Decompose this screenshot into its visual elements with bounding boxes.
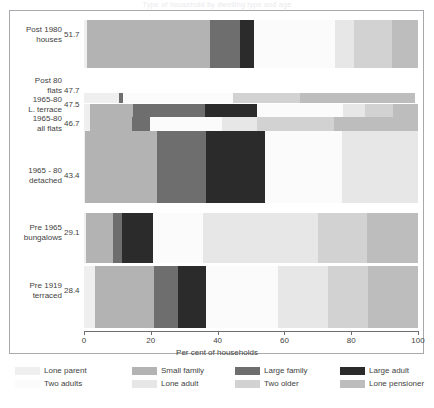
y-category-label: Pre 1919terraced: [0, 281, 62, 300]
bar-segment: [343, 104, 365, 117]
y-category-value: 43.4: [64, 171, 80, 180]
y-category-label: 1965 - 80detached: [0, 166, 62, 185]
y-category-value: 46.7: [64, 119, 80, 128]
x-tick-label: 60: [280, 336, 289, 345]
bar-segment: [210, 20, 240, 68]
y-category-label-line1: 1965 - 80: [0, 166, 62, 176]
y-category-label-line1: Pre 1965: [0, 223, 62, 233]
x-axis-label: Per cent of households: [0, 348, 434, 357]
bar-segment: [354, 20, 392, 68]
bar-segment: [365, 104, 393, 117]
y-category-label-line2: flats: [0, 86, 62, 96]
y-category-label-line1: Post 80: [0, 76, 62, 86]
x-tick: [351, 331, 352, 335]
y-category-label-line1: 1965-80: [0, 95, 62, 105]
bar-segment: [150, 117, 222, 131]
legend-swatch-icon: [132, 380, 157, 388]
legend-label: Lone parent: [44, 366, 87, 375]
legend-label: Large adult: [369, 366, 409, 375]
stacked-bar: [84, 104, 418, 117]
chart-page: Type of household by dwelling type and a…: [0, 0, 434, 408]
x-tick: [418, 331, 419, 335]
x-tick-label: 100: [411, 336, 424, 345]
bar-segment: [90, 117, 132, 131]
bar-segment: [318, 213, 367, 263]
y-category-label-line2: detached: [0, 176, 62, 186]
bar-segment: [265, 131, 342, 203]
stacked-bar: [84, 131, 418, 203]
bar-segment: [157, 131, 206, 203]
legend-row: Two adultsLone adultTwo olderLone pensio…: [9, 379, 424, 390]
bar-segment: [90, 104, 133, 117]
stacked-bar: [84, 117, 418, 131]
bar-segment: [300, 93, 415, 103]
legend-item[interactable]: Lone parent: [15, 366, 87, 375]
x-tick-label: 20: [146, 336, 155, 345]
bar-segment: [85, 131, 157, 203]
legend-item[interactable]: Two older: [235, 379, 299, 388]
bar-segment: [278, 266, 328, 328]
y-category-label: 1965-80L. terrace: [0, 95, 62, 114]
x-tick: [284, 331, 285, 335]
y-category-label-line2: all flats: [0, 124, 62, 134]
legend-item[interactable]: Lone adult: [132, 379, 198, 388]
bar-segment: [334, 117, 418, 131]
legend-swatch-icon: [340, 380, 365, 388]
y-category-label-line1: 1965-80: [0, 114, 62, 124]
bar-segment: [122, 213, 153, 263]
legend-item[interactable]: Large adult: [340, 366, 409, 375]
bar-segment: [154, 266, 178, 328]
legend-label: Two older: [264, 379, 299, 388]
y-category-label: Post 1980houses: [0, 25, 62, 44]
x-tick: [218, 331, 219, 335]
x-axis-line: [84, 331, 419, 332]
bar-segment: [233, 93, 300, 103]
bar-segment: [87, 20, 210, 68]
y-category-label: 1965-80all flats: [0, 114, 62, 133]
stacked-bar: [84, 213, 418, 263]
legend-label: Two adults: [44, 379, 82, 388]
x-tick: [84, 331, 85, 335]
bar-segment: [113, 213, 122, 263]
stacked-bar: [84, 266, 418, 328]
bar-segment: [367, 213, 418, 263]
bar-segment: [240, 20, 254, 68]
bar-segment: [368, 266, 418, 328]
legend-swatch-icon: [15, 380, 40, 388]
y-category-label-line2: terraced: [0, 291, 62, 301]
legend-swatch-icon: [235, 367, 260, 375]
bar-segment: [123, 93, 233, 103]
bar-segment: [257, 117, 334, 131]
legend-label: Lone pensioner: [369, 379, 424, 388]
legend-item[interactable]: Large family: [235, 366, 308, 375]
chart-legend: Lone parentSmall familyLarge familyLarge…: [9, 360, 424, 400]
y-category-label-line2: bungalows: [0, 233, 62, 243]
bar-segment: [84, 266, 95, 328]
y-category-value: 47.5: [64, 100, 80, 109]
y-category-label-line2: L. terrace: [0, 105, 62, 115]
bar-segment: [178, 266, 206, 328]
bar-segment: [132, 117, 150, 131]
y-category-value: 51.7: [64, 30, 80, 39]
bar-segment: [206, 131, 265, 203]
y-category-label-line1: Post 1980: [0, 25, 62, 35]
plot-area: [84, 10, 418, 331]
x-tick-label: 80: [347, 336, 356, 345]
y-category-label: Pre 1965bungalows: [0, 223, 62, 242]
cropped-title-text: Type of household by dwelling type and a…: [0, 0, 434, 9]
legend-row: Lone parentSmall familyLarge familyLarge…: [9, 366, 424, 377]
legend-item[interactable]: Lone pensioner: [340, 379, 424, 388]
stacked-bar: [84, 20, 418, 68]
legend-swatch-icon: [235, 380, 260, 388]
y-category-label: Post 80flats: [0, 76, 62, 95]
legend-item[interactable]: Small family: [132, 366, 204, 375]
y-category-label-line2: houses: [0, 35, 62, 45]
legend-label: Small family: [161, 366, 204, 375]
bar-segment: [95, 266, 154, 328]
bar-segment: [393, 104, 418, 117]
legend-swatch-icon: [15, 367, 40, 375]
bar-segment: [222, 117, 257, 131]
bar-segment: [335, 20, 354, 68]
legend-item[interactable]: Two adults: [15, 379, 82, 388]
x-tick: [151, 331, 152, 335]
